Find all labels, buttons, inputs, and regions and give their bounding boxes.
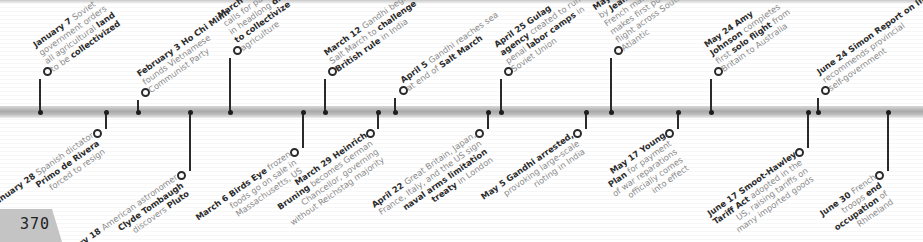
event-dot — [136, 110, 141, 115]
event-text-line: recommends provincial — [821, 20, 907, 84]
event-dot — [816, 110, 821, 115]
page-number: 370 — [20, 215, 50, 233]
event-dot — [886, 110, 891, 115]
event-stem — [487, 112, 489, 129]
event-stem — [610, 58, 612, 112]
event-dot — [609, 110, 614, 115]
event-text-line: Salt March to challenge — [328, 0, 419, 66]
event-dot — [676, 110, 681, 115]
event-label: April 25 Gulagagency created to runpenal… — [492, 0, 594, 74]
event-stem — [807, 112, 809, 148]
event-dot — [188, 110, 193, 115]
event-stem — [710, 79, 712, 112]
event-dot — [584, 110, 589, 115]
event-label: April 5 Gandhi reaches seaat end of Salt… — [399, 10, 506, 93]
event-dot — [104, 110, 109, 115]
event-stem — [887, 112, 889, 171]
event-stem — [189, 112, 191, 171]
event-text-line: Gandhi reaches sea — [426, 10, 500, 66]
event-dot — [709, 110, 714, 115]
event-dot — [323, 110, 328, 115]
event-text-line: Simon Report on India — [846, 0, 923, 55]
event-stem — [302, 112, 304, 148]
event-label: June 30 Frenchtroops endoccupation ofRhi… — [818, 172, 895, 242]
event-stem — [677, 112, 679, 129]
event-label: May 5 Gandhi arrested,provoking large-sc… — [479, 130, 587, 218]
event-date: January 28 — [0, 169, 40, 208]
event-label: May 17 YoungPlan for paymentof war repar… — [599, 130, 690, 215]
top-rule — [0, 0, 923, 3]
event-dot — [228, 110, 233, 115]
event-dot — [301, 110, 306, 115]
event-date: March 6 — [194, 191, 233, 223]
event-label: June 17 Smoot-HawleyTariff Act adopted i… — [705, 149, 815, 242]
event-label: May 13 Pilotedby Jean Mermoz,French mail… — [591, 0, 689, 53]
event-label: June 24 Simon Report on Indiarecommends … — [815, 0, 923, 93]
event-stem — [377, 112, 379, 129]
event-label: May 24 AmyJohnson completesfirst solo fl… — [702, 0, 797, 74]
timeline-page: January 7 Sovietgovernment ordersall agr… — [0, 0, 923, 242]
event-stem — [585, 112, 587, 129]
event-label: March 2 Stalincalls for pausein headlong… — [215, 0, 306, 53]
event-dot — [806, 110, 811, 115]
event-label: April 22 Great Britain, Japan,France, It… — [370, 130, 495, 234]
event-dot — [486, 110, 491, 115]
event-stem — [324, 79, 326, 112]
event-stem — [500, 79, 502, 112]
event-dot — [393, 110, 398, 115]
event-label: February 18 American astronomerClyde Tom… — [50, 172, 191, 242]
event-stem — [105, 112, 107, 129]
event-stem — [229, 58, 231, 112]
event-stem — [39, 79, 41, 112]
event-dot — [499, 110, 504, 115]
event-label: January 7 Sovietgovernment ordersall agr… — [31, 0, 122, 74]
event-dot — [376, 110, 381, 115]
event-label: March 12 Gandhi beginsSalt March to chal… — [322, 0, 427, 74]
event-dot — [38, 110, 43, 115]
